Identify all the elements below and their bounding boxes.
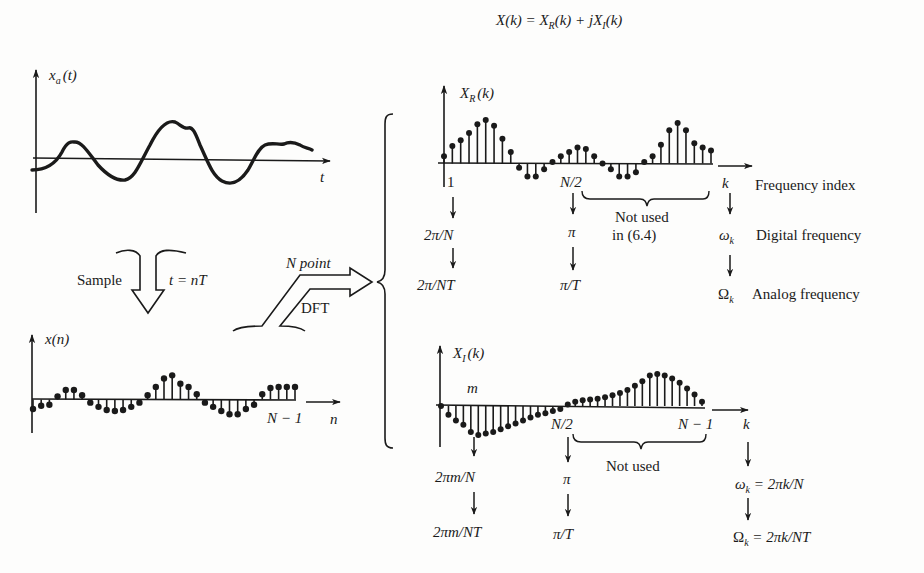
stem-dot [600, 161, 606, 167]
stem-dot [46, 402, 52, 408]
stem-dot [475, 432, 481, 438]
stem-dot [595, 396, 601, 402]
stem-dot [691, 140, 697, 146]
Omega-k: Ωk [718, 286, 734, 305]
sample-arrow: Sample t = nT [77, 250, 208, 313]
stem-dot [558, 153, 564, 159]
digital-frequency-label: Digital frequency [756, 227, 862, 243]
stem-dot [527, 415, 533, 421]
stem-dot [177, 381, 183, 387]
stem-dot [647, 373, 653, 379]
stem-dot [491, 123, 497, 129]
k-axis-label: k [722, 175, 729, 191]
stem-dot [566, 149, 572, 155]
stem-dot [624, 387, 630, 393]
tick-n-half-label: N/2 [550, 416, 573, 432]
omega-k: ωk [719, 227, 735, 246]
Omega-k-formula: Ωk = 2πk/NT [733, 529, 812, 548]
omega-k-formula: ωk = 2πk/N [735, 476, 805, 495]
stem-dot [572, 399, 578, 405]
stem-dot [112, 408, 118, 414]
stem-dot [683, 127, 689, 133]
stem-dot [169, 372, 175, 378]
stem-dot [441, 153, 447, 159]
stem-dot [580, 397, 586, 403]
stem-dot [662, 373, 668, 379]
stem-dot [267, 385, 273, 391]
stem-dot [490, 429, 496, 435]
stem-dot [468, 429, 474, 435]
stem-dot [144, 392, 150, 398]
tick-n-half-label: N/2 [559, 174, 582, 190]
stem-dot [161, 375, 167, 381]
stem-dot [210, 404, 216, 410]
dft-label: DFT [301, 300, 329, 316]
stem-dot [438, 403, 444, 409]
stem-dot [226, 411, 232, 417]
stem-dot [445, 412, 451, 418]
stem-dot [610, 392, 616, 398]
stem-dot [234, 411, 240, 417]
stem-dot [128, 404, 134, 410]
stem-dot [700, 145, 706, 151]
stem-dot [641, 159, 647, 165]
stem-dot [453, 418, 459, 424]
stem-dot [608, 166, 614, 172]
stem-dot [684, 386, 690, 392]
not-used-brace [573, 434, 706, 449]
stem-dot [71, 387, 77, 393]
mid-analog-freq: π/T [553, 526, 575, 542]
m-analog-freq: 2πm/NT [433, 524, 483, 540]
analog-waveform [32, 122, 312, 184]
analog-frequency-label: Analog frequency [752, 286, 860, 302]
xr-label: XR(k) [459, 85, 494, 104]
stem-dot [583, 146, 589, 152]
stem-dot [513, 420, 519, 426]
stem-dot [136, 399, 142, 405]
stem-dot [625, 174, 631, 180]
mid-digital-freq: π [568, 224, 576, 240]
stem-dot [602, 394, 608, 400]
stem-dot [474, 121, 480, 127]
stem-dot [617, 390, 623, 396]
stem-dot [499, 136, 505, 142]
stem-dot [654, 371, 660, 377]
analog-signal-plot: xa(t) t [32, 67, 330, 213]
sample-rule-label: t = nT [169, 272, 208, 288]
stem-dot [692, 391, 698, 397]
stem-dot [275, 384, 281, 390]
stem-dot [498, 426, 504, 432]
xi-label: XI(k) [452, 345, 484, 364]
first-analog-freq: 2π/NT [417, 277, 456, 293]
stem-dot [587, 396, 593, 402]
stem-dot [708, 147, 714, 153]
stem-dot [95, 404, 101, 410]
stem-dot [218, 408, 224, 414]
stem-dot [520, 418, 526, 424]
xn-label: x(n) [44, 331, 69, 348]
stem-dot [557, 406, 563, 412]
mid-analog-freq: π/T [560, 277, 582, 293]
stem-dot [120, 407, 126, 413]
stem-dot [632, 383, 638, 389]
dft-diagram: X(k) = XR(k) + jXI(k) xa(t) t Sample t =… [0, 0, 924, 573]
not-used-line2: in (6.4) [612, 227, 656, 244]
stem-dot [153, 384, 159, 390]
stem-dot [202, 399, 208, 405]
not-used-line1: Not used [615, 209, 669, 225]
stem-dot [533, 174, 539, 180]
tick-1-label: 1 [447, 174, 455, 190]
stem-dot [63, 387, 69, 393]
stem-dot [87, 399, 93, 405]
stem-dot [292, 384, 298, 390]
stem-dot [103, 407, 109, 413]
k-baseline [438, 163, 713, 164]
stem-dot [243, 406, 249, 412]
xa-label: xa(t) [48, 67, 77, 86]
stem-dot [535, 412, 541, 418]
discrete-signal-plot: x(n) N − 1 n [30, 331, 340, 433]
stem-dot [516, 165, 522, 171]
mid-digital-freq: π [563, 471, 571, 487]
stem-dot [541, 166, 547, 172]
stem-dot [483, 117, 489, 123]
